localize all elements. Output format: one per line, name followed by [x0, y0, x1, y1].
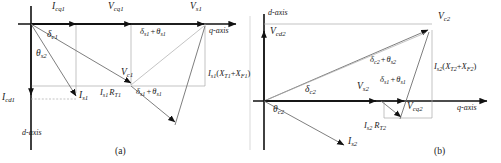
- caption-b: (b): [434, 146, 445, 156]
- label-vcd2: Vcd2: [270, 27, 286, 38]
- panel-b-vector-vc2-alt: [264, 33, 425, 101]
- label-delta-c1: δc1: [47, 30, 58, 41]
- label-is1-xt1-xf1: Is1(XT1+XF1): [208, 69, 250, 79]
- label-icd1: Icd1: [2, 93, 15, 104]
- figure-root: Icq1 Vcq1 Vs1 δc1 θs2 δs1+θs1 q-axis Vc1…: [0, 0, 501, 163]
- label-is1-rt1: Is1RT1: [100, 88, 121, 98]
- label-is2: Is2: [348, 137, 357, 148]
- label-is2-xt2-xf2: Is2(XT2+XF2): [434, 62, 476, 72]
- label-vc2: Vc2: [438, 12, 450, 23]
- label-q-axis-b: q-axis: [457, 103, 477, 112]
- label-vcq1: Vcq1: [108, 2, 124, 13]
- label-vs2: Vs2: [357, 82, 369, 93]
- label-delta-s1-theta-s1-b: δs1+θs1: [380, 75, 406, 85]
- label-delta-s1-theta-s1-mid: δs1+θs1: [136, 87, 162, 97]
- label-is2-rt2: Is2RT2: [364, 121, 386, 131]
- label-vc1: Vc1: [121, 68, 133, 79]
- figure-canvas: [0, 0, 501, 163]
- label-icq1: Icq1: [52, 2, 65, 13]
- label-d-axis-a: d-axis: [22, 128, 42, 137]
- label-theta-s2: θs2: [36, 49, 47, 60]
- label-delta-c2-theta-s2: δc2+θs2: [370, 55, 396, 65]
- label-q-axis-a: q-axis: [209, 26, 229, 35]
- caption-a: (a): [115, 146, 126, 156]
- label-delta-s1-theta-s1-top: δs1+θs1: [140, 27, 166, 37]
- label-is1: Is1: [79, 91, 88, 102]
- label-d-axis-b: d-axis: [268, 8, 288, 17]
- label-delta-c2: δc2: [305, 85, 316, 96]
- label-vs1: Vs1: [190, 2, 202, 13]
- panel-a-vector-is1x: [175, 26, 205, 125]
- label-vcq2: Vcq2: [407, 102, 423, 113]
- label-theta-c2: θc2: [273, 105, 284, 116]
